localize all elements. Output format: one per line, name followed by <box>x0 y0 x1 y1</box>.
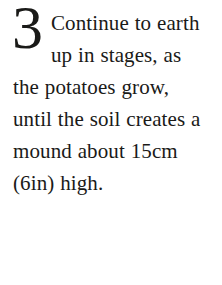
instruction-step-card: 3 Continue to earth up in stages, as the… <box>0 0 222 285</box>
dropcap-wrap-shim <box>13 7 51 71</box>
step-instruction-text: Continue to earth up in stages, as the p… <box>13 7 213 199</box>
